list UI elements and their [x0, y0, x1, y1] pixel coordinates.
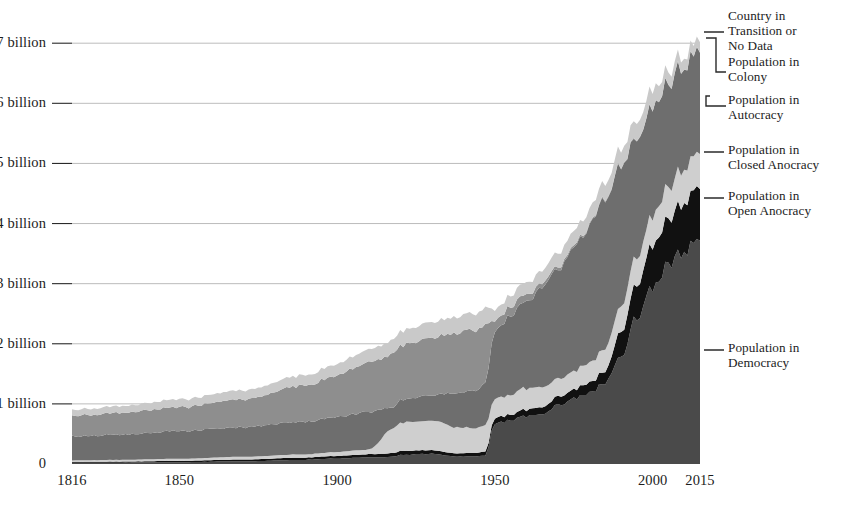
- y-axis-tick-label: 4 billion: [0, 215, 46, 232]
- y-tick-marks: [52, 43, 72, 404]
- x-axis-tick-label: 1816: [32, 472, 112, 489]
- legend-entry-label: Population in Democracy: [728, 340, 799, 370]
- stacked-area-plot: [0, 0, 847, 509]
- legend-entry-label: Population in Closed Anocracy: [728, 142, 819, 172]
- y-axis-tick-label: 7 billion: [0, 34, 46, 51]
- legend-entry-label: Country in Transition or No Data: [728, 8, 797, 54]
- legend-leader-lines: [704, 32, 726, 350]
- population-by-political-regime-chart: 7 billion6 billion5 billion4 billion3 bi…: [0, 0, 847, 509]
- area-bands: [72, 36, 700, 464]
- x-axis-tick-label: 1950: [455, 472, 535, 489]
- y-axis-tick-label: 1 billion: [0, 395, 46, 412]
- legend-entry-label: Population in Autocracy: [728, 92, 799, 122]
- legend-leader-bracket: [706, 96, 726, 106]
- y-axis-tick-label: 6 billion: [0, 94, 46, 111]
- y-axis-tick-label: 3 billion: [0, 275, 46, 292]
- y-axis-tick-label: 5 billion: [0, 154, 46, 171]
- y-axis-tick-label: 0: [39, 455, 46, 472]
- x-axis-tick-label: 1900: [297, 472, 377, 489]
- x-axis-tick-label: 2015: [660, 472, 740, 489]
- legend-entry-label: Population in Colony: [728, 54, 799, 84]
- legend-entry-label: Population in Open Anocracy: [728, 188, 811, 218]
- legend-leader-bracket: [706, 38, 726, 72]
- x-axis-tick-label: 1850: [139, 472, 219, 489]
- y-axis-tick-label: 2 billion: [0, 335, 46, 352]
